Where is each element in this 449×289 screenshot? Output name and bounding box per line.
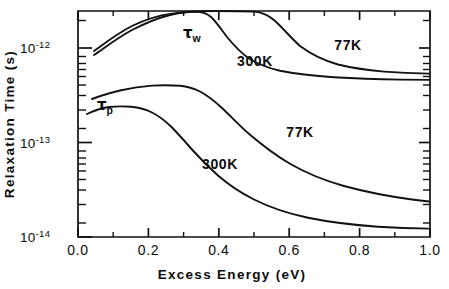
x-tick-label-3: 0.6 xyxy=(279,242,300,258)
x-tick-label-4: 0.8 xyxy=(349,242,370,258)
series-label-77k-upper: 77K xyxy=(334,37,361,53)
x-tick-label-0: 0.0 xyxy=(67,242,88,258)
figure-container: 10-12 10-13 10-14 0.0 0.2 0.4 0.6 0.8 1.… xyxy=(0,0,449,289)
x-axis-title: Excess Energy (eV) xyxy=(158,267,307,282)
relaxation-time-plot: 10-12 10-13 10-14 0.0 0.2 0.4 0.6 0.8 1.… xyxy=(0,0,449,289)
series-label-300k-lower: 300K xyxy=(202,156,238,172)
x-tick-label-1: 0.2 xyxy=(138,242,159,258)
series-label-77k-lower: 77K xyxy=(286,124,313,140)
x-tick-label-2: 0.4 xyxy=(208,242,229,258)
x-tick-label-5: 1.0 xyxy=(419,242,440,258)
series-label-300k-upper: 300K xyxy=(237,53,273,69)
y-axis-title: Relaxation Time (s) xyxy=(2,50,17,198)
